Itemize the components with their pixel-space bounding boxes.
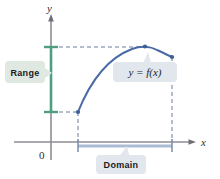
function-label-callout: y = f(x): [113, 52, 177, 82]
curve-left-endpoint-dot: [76, 110, 80, 114]
graph-canvas: y x 0: [0, 0, 220, 179]
range-label-callout: Range: [5, 61, 52, 83]
domain-label-text: Domain: [104, 160, 139, 170]
origin-label: 0: [39, 149, 45, 161]
range-bar-group: [44, 47, 58, 112]
function-label-text: y = f(x): [127, 66, 161, 79]
x-axis-arrowhead: [189, 139, 197, 145]
curve-peak-dot: [143, 44, 147, 48]
function-graph-figure: y x 0: [0, 0, 220, 179]
domain-label-callout: Domain: [96, 146, 146, 174]
y-axis-label: y: [46, 2, 52, 14]
range-label-text: Range: [10, 68, 39, 78]
curve-right-endpoint-dot: [170, 55, 174, 59]
y-axis-arrowhead: [48, 14, 54, 22]
axes-group: [14, 14, 196, 160]
x-axis-label: x: [200, 136, 206, 148]
